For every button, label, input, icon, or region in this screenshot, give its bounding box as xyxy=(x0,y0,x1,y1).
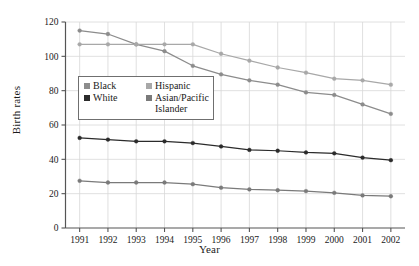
data-point xyxy=(219,72,223,76)
data-point xyxy=(389,83,393,87)
x-axis-title: Year xyxy=(0,243,419,255)
data-point xyxy=(248,187,252,191)
data-point xyxy=(163,139,167,143)
data-point xyxy=(304,71,308,75)
data-point xyxy=(219,52,223,56)
data-point xyxy=(361,78,365,82)
legend-swatch-icon xyxy=(146,95,152,101)
data-point xyxy=(106,181,110,185)
y-tick-label: 120 xyxy=(44,17,59,27)
data-point xyxy=(276,66,280,70)
legend-swatch-icon xyxy=(84,95,90,101)
data-point xyxy=(106,32,110,36)
data-point xyxy=(134,181,138,185)
series-white xyxy=(78,136,393,162)
series-line xyxy=(80,138,391,160)
y-tick-label: 20 xyxy=(49,189,59,199)
axes xyxy=(62,22,406,232)
data-point xyxy=(276,83,280,87)
legend-label: Black xyxy=(93,80,116,92)
data-point xyxy=(361,193,365,197)
chart-legend: BlackHispanicWhiteAsian/PacificIslander xyxy=(78,76,214,120)
data-point xyxy=(248,59,252,63)
data-point xyxy=(163,181,167,185)
data-point xyxy=(361,156,365,160)
data-point xyxy=(134,139,138,143)
data-point xyxy=(106,42,110,46)
data-point xyxy=(163,42,167,46)
gridlines xyxy=(66,22,406,228)
data-point xyxy=(332,151,336,155)
y-tick-label: 80 xyxy=(49,86,59,96)
legend-entry: Black xyxy=(84,80,144,92)
data-point xyxy=(389,158,393,162)
data-point xyxy=(163,49,167,53)
series-asian-pacific-islander xyxy=(78,179,393,198)
y-tick-label: 40 xyxy=(49,155,59,165)
data-point xyxy=(191,182,195,186)
data-point xyxy=(78,136,82,140)
legend-label: White xyxy=(93,92,117,104)
y-tick-label: 60 xyxy=(49,120,59,130)
data-point xyxy=(304,151,308,155)
y-tick-label: 100 xyxy=(44,52,59,62)
data-point xyxy=(191,64,195,68)
legend-label: Asian/Pacific xyxy=(155,92,209,104)
data-point xyxy=(389,194,393,198)
data-point xyxy=(248,78,252,82)
data-point xyxy=(332,77,336,81)
birth-rates-line-chart: 020406080100120 199119921993199419951996… xyxy=(0,0,419,266)
data-point xyxy=(304,90,308,94)
data-point xyxy=(361,103,365,107)
data-point xyxy=(276,188,280,192)
data-point xyxy=(304,189,308,193)
legend-entry: Asian/Pacific xyxy=(146,92,209,104)
y-tick-label: 0 xyxy=(54,223,59,233)
legend-label: Hispanic xyxy=(155,80,191,92)
legend-entry: White xyxy=(84,92,144,104)
data-point xyxy=(191,141,195,145)
data-point xyxy=(78,179,82,183)
legend-label-continuation: Islander xyxy=(146,103,209,115)
data-point xyxy=(134,42,138,46)
data-point xyxy=(191,42,195,46)
data-point xyxy=(219,186,223,190)
y-axis-tick-labels: 020406080100120 xyxy=(44,17,59,233)
data-point xyxy=(219,145,223,149)
legend-swatch-icon xyxy=(146,83,152,89)
data-point xyxy=(78,42,82,46)
data-point xyxy=(332,93,336,97)
legend-entry: Hispanic xyxy=(146,80,209,92)
legend-entries: BlackHispanicWhiteAsian/PacificIslander xyxy=(84,80,208,115)
data-point xyxy=(78,29,82,33)
chart-canvas: 020406080100120 199119921993199419951996… xyxy=(0,0,419,266)
data-point xyxy=(106,138,110,142)
data-point xyxy=(276,149,280,153)
y-axis-title: Birth rates xyxy=(10,70,22,150)
data-point xyxy=(389,112,393,116)
data-point xyxy=(332,191,336,195)
legend-swatch-icon xyxy=(84,83,90,89)
data-point xyxy=(248,148,252,152)
